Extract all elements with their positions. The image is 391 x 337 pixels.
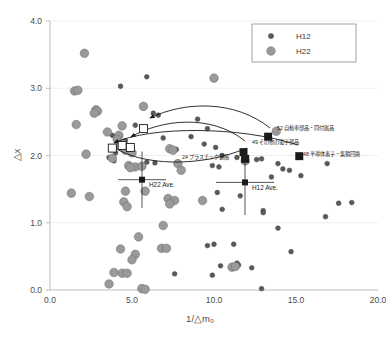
data-point-h22 — [165, 200, 174, 209]
data-point-h12 — [254, 157, 259, 162]
data-point-h12 — [269, 175, 274, 180]
data-point-h22 — [121, 187, 130, 196]
data-point-h12 — [325, 161, 330, 166]
legend-marker-h12 — [268, 33, 273, 38]
data-point-h12 — [323, 214, 328, 219]
data-point-h22 — [110, 268, 119, 277]
data-point-h22 — [85, 192, 94, 201]
data-point-h12 — [205, 243, 210, 248]
scatter-chart-container: 4.0 3.0 2.0 1.0 0.0 0.0 5.0 10.0 15.0 20… — [0, 0, 391, 337]
origin-marker-open-square — [118, 141, 126, 149]
data-point-h12 — [133, 123, 138, 128]
data-point-h12 — [202, 142, 207, 147]
data-point-h12 — [217, 165, 222, 170]
data-point-h22 — [116, 245, 125, 254]
data-point-h12 — [287, 168, 292, 173]
data-point-h22 — [72, 120, 81, 129]
data-point-h22 — [123, 202, 132, 211]
data-point-h12 — [276, 226, 281, 231]
data-point-h12 — [259, 286, 264, 291]
data-point-h22 — [82, 150, 91, 159]
data-point-h12 — [231, 242, 236, 247]
data-point-h12 — [218, 263, 223, 268]
data-point-h12 — [249, 265, 254, 270]
data-point-h12 — [161, 136, 166, 141]
annotation-label-plastic: 24 プラスチック製品 — [182, 153, 229, 161]
data-point-h12 — [212, 242, 217, 247]
data-point-h12 — [276, 161, 281, 166]
annotation-label-semiconductor: 48 半導体素子・集積回路 — [303, 150, 361, 158]
data-point-h12 — [220, 207, 225, 212]
annotation-label-electronic-parts: 49 その他の電子部品 — [252, 138, 299, 146]
data-point-h12 — [336, 201, 341, 206]
data-point-h12 — [151, 111, 156, 116]
data-point-h22 — [128, 255, 137, 264]
data-point-h22 — [134, 233, 143, 242]
data-point-h12 — [259, 156, 264, 161]
data-point-h22 — [126, 163, 135, 172]
x-axis-title: 1/△m₀ — [186, 313, 214, 324]
data-point-h22 — [90, 109, 99, 118]
legend-box — [252, 24, 356, 62]
y-tick-label: 4.0 — [30, 16, 42, 26]
data-point-h22 — [67, 189, 76, 198]
data-point-h22 — [159, 221, 168, 230]
data-point-h12 — [280, 167, 285, 172]
y-tick-label: 2.0 — [30, 151, 42, 161]
data-point-h12 — [238, 193, 243, 198]
data-point-h22 — [105, 280, 114, 289]
annotation-label-auto-parts: 52 自動車部品・同付属品 — [277, 124, 334, 132]
data-point-h22 — [162, 244, 171, 253]
data-point-h12 — [299, 173, 304, 178]
x-tick-label: 0.0 — [44, 295, 56, 305]
data-point-h12 — [144, 74, 149, 79]
y-tick-label: 0.0 — [30, 285, 42, 295]
data-point-h22 — [210, 74, 219, 83]
legend-marker-h22 — [267, 47, 276, 56]
x-tick-label: 15.0 — [288, 295, 305, 305]
data-point-h12 — [210, 273, 215, 278]
legend-label-h12: H12 — [296, 32, 311, 41]
data-point-h12 — [289, 249, 294, 254]
data-point-h22 — [118, 122, 127, 131]
x-tick-label: 20.0 — [370, 295, 387, 305]
data-point-h22 — [80, 49, 89, 58]
legend-label-h22: H22 — [296, 47, 311, 56]
data-point-h12 — [261, 210, 266, 215]
data-point-h12 — [235, 155, 240, 160]
origin-marker-open-square — [108, 144, 116, 152]
data-point-h12 — [189, 134, 194, 139]
data-point-h22 — [139, 102, 148, 111]
data-point-h22 — [123, 269, 132, 278]
origin-marker-open-square — [126, 143, 134, 151]
data-point-h22 — [103, 128, 112, 137]
y-tick-label: 1.0 — [30, 218, 42, 228]
origin-marker-open-square — [139, 125, 147, 133]
data-point-h22 — [231, 262, 240, 271]
data-point-h22 — [169, 146, 178, 155]
data-point-h22 — [141, 285, 150, 294]
data-point-h12 — [213, 145, 218, 150]
data-point-h12 — [172, 271, 177, 276]
legend: H12 H22 — [252, 24, 356, 62]
data-point-h12 — [195, 117, 200, 122]
average-label-h22: H22 Ave. — [149, 181, 175, 188]
data-point-h12 — [349, 200, 354, 205]
data-point-h22 — [177, 166, 186, 175]
y-axis-title: △x — [11, 148, 22, 161]
x-tick-label: 5.0 — [126, 295, 138, 305]
average-label-h12: H12 Ave. — [252, 184, 278, 191]
data-point-h22 — [74, 86, 83, 95]
data-point-h12 — [118, 84, 123, 89]
chart-svg: 4.0 3.0 2.0 1.0 0.0 0.0 5.0 10.0 15.0 20… — [0, 0, 391, 337]
y-tick-label: 3.0 — [30, 83, 42, 93]
data-point-h22 — [108, 154, 117, 163]
data-point-h22 — [198, 196, 207, 205]
data-point-h12 — [215, 190, 220, 195]
x-tick-label: 10.0 — [206, 295, 223, 305]
data-point-h12 — [210, 163, 215, 168]
